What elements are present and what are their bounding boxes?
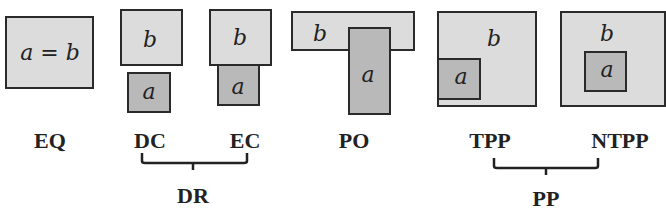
label-pp: PP [533,188,560,210]
brace-dr [142,153,247,170]
label-dr: DR [177,185,209,207]
brace-pp [494,158,598,175]
